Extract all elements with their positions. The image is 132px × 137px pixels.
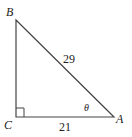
right-angle-marker: [16, 108, 24, 117]
vertex-label-b: B: [6, 5, 14, 19]
vertex-label-c: C: [4, 118, 13, 132]
vertex-label-a: A: [115, 112, 124, 126]
right-triangle-diagram: B C A 29 θ 21: [0, 0, 132, 137]
angle-theta-label: θ: [84, 102, 89, 113]
triangle: [16, 20, 114, 117]
hypotenuse-label: 29: [63, 52, 75, 66]
base-label: 21: [59, 120, 71, 134]
